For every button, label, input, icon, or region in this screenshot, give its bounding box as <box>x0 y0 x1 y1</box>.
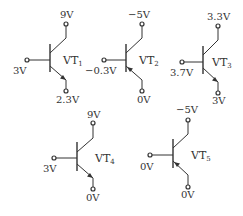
transistor-vt1: 9V 3V 2.3V VT1 <box>13 9 83 105</box>
transistor-vt4: 9V 3V 0V VT4 <box>43 109 115 203</box>
emitter-terminal <box>140 89 144 93</box>
base-voltage: 3.7V <box>170 67 194 78</box>
emitter-terminal <box>64 89 68 93</box>
transistor-vt2: −5V −0.3V 0V VT2 <box>85 9 159 105</box>
transistor-label: VT4 <box>94 152 115 166</box>
base-terminal <box>102 58 106 62</box>
collector-voltage: 3.3V <box>207 11 231 22</box>
transistor-label: VT3 <box>211 56 232 70</box>
base-terminal <box>148 153 152 157</box>
emitter-voltage: 2.3V <box>56 94 80 105</box>
base-terminal <box>180 60 184 64</box>
transistor-label: VT2 <box>138 54 159 68</box>
base-terminal <box>52 156 56 160</box>
base-terminal <box>25 58 29 62</box>
collector-lead <box>126 38 142 53</box>
collector-terminal <box>91 121 95 125</box>
base-voltage: 3V <box>43 163 57 174</box>
collector-lead <box>50 38 66 53</box>
collector-terminal <box>64 22 68 26</box>
collector-terminal <box>216 24 220 28</box>
collector-terminal <box>140 22 144 26</box>
collector-terminal <box>186 118 190 122</box>
base-voltage: 3V <box>13 65 27 76</box>
emitter-voltage: 0V <box>137 94 151 105</box>
collector-lead <box>173 134 188 148</box>
collector-lead <box>77 138 93 152</box>
collector-lead <box>203 40 218 55</box>
transistor-diagram: 9V 3V 2.3V VT1 −5V −0.3V 0V VT2 3.3V 3.7… <box>0 0 243 216</box>
base-voltage: 0V <box>140 161 154 172</box>
collector-voltage: 9V <box>60 9 74 20</box>
emitter-voltage: 3V <box>212 95 226 106</box>
transistor-label: VT1 <box>62 54 83 68</box>
emitter-voltage: 0V <box>86 192 100 203</box>
transistor-vt3: 3.3V 3.7V 3V VT3 <box>170 11 232 106</box>
collector-voltage: −5V <box>128 9 151 20</box>
transistor-vt5: −5V 0V 0V VT5 <box>140 104 211 200</box>
transistor-label: VT5 <box>190 149 211 163</box>
collector-voltage: −5V <box>176 104 199 115</box>
emitter-terminal <box>91 187 95 191</box>
base-voltage: −0.3V <box>85 65 117 76</box>
emitter-voltage: 0V <box>181 189 195 200</box>
collector-voltage: 9V <box>87 109 101 120</box>
